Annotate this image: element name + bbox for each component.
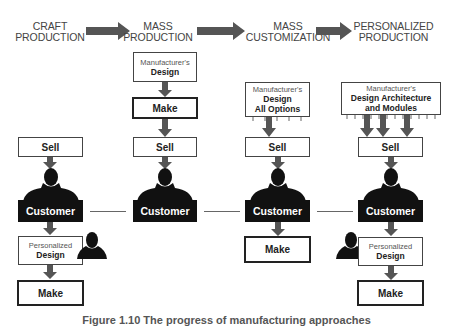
craft-make-box: Make bbox=[17, 280, 84, 306]
connector-line bbox=[204, 211, 240, 212]
mass-customization-make-box: Make bbox=[244, 236, 311, 263]
box-label: Sell bbox=[42, 142, 60, 153]
box-bold-text: Design bbox=[36, 250, 64, 260]
box-bold-text: and Modules bbox=[365, 103, 417, 113]
option-ticks bbox=[245, 117, 310, 121]
customer-silhouette-icon bbox=[135, 168, 195, 202]
down-arrow-icon bbox=[400, 115, 414, 137]
connector-line bbox=[317, 211, 353, 212]
personalized-design-box: Personalized Design bbox=[358, 237, 423, 266]
box-bold-text: Design bbox=[376, 251, 404, 261]
box-small-text: Manufacturer's bbox=[253, 85, 302, 94]
mass-production-customer-box: Customer bbox=[133, 200, 197, 222]
box-label: Sell bbox=[269, 142, 287, 153]
craft-personalized-design-box: Personalized Design bbox=[18, 236, 83, 265]
box-small-text: Personalized bbox=[369, 242, 412, 251]
personalized-sell-box: Sell bbox=[358, 137, 423, 157]
box-bold-text: Design bbox=[151, 67, 179, 77]
mass-customization-design-box: Manufacturer's Design All Options bbox=[245, 82, 310, 117]
personalized-customer-box: Customer bbox=[358, 200, 423, 222]
stage-header-personalized-production: PERSONALIZED PRODUCTION bbox=[346, 21, 441, 43]
down-arrow-icon bbox=[158, 119, 172, 137]
personalized-make-box: Make bbox=[357, 280, 424, 306]
person-silhouette-icon bbox=[77, 231, 107, 261]
box-small-text: Manufacturer's bbox=[366, 84, 415, 93]
customer-label: Customer bbox=[26, 205, 75, 217]
box-label: Sell bbox=[382, 142, 400, 153]
box-label: Sell bbox=[156, 142, 174, 153]
mass-production-design-box: Manufacturer's Design bbox=[133, 52, 197, 82]
mass-customization-customer-box: Customer bbox=[245, 200, 310, 222]
box-small-text: Personalized bbox=[29, 241, 72, 250]
mass-production-sell-box: Sell bbox=[133, 137, 197, 157]
down-arrow-icon bbox=[43, 265, 57, 279]
stage-line2: PRODUCTION bbox=[346, 32, 441, 43]
down-arrow-icon bbox=[360, 115, 374, 137]
customer-silhouette-icon bbox=[248, 168, 308, 202]
down-arrow-icon bbox=[384, 266, 398, 280]
box-bold-text: Design Architecture bbox=[351, 93, 431, 103]
stage-header-craft: CRAFT PRODUCTION bbox=[5, 21, 95, 43]
caption-text: Figure 1.10 The progress of manufacturin… bbox=[82, 314, 371, 326]
customer-label: Customer bbox=[253, 205, 302, 217]
figure-caption: Figure 1.10 The progress of manufacturin… bbox=[0, 314, 453, 326]
module-ticks bbox=[341, 115, 441, 119]
box-label: Make bbox=[38, 288, 63, 299]
stage-header-mass-production: MASS PRODUCTION bbox=[118, 21, 198, 43]
stage-line2: PRODUCTION bbox=[118, 32, 198, 43]
box-bold-text: All Options bbox=[255, 104, 300, 114]
customer-silhouette-icon bbox=[361, 168, 421, 202]
customer-silhouette-icon bbox=[21, 168, 81, 202]
box-label: Make bbox=[265, 244, 290, 255]
personalized-design-architecture-box: Manufacturer's Design Architecture and M… bbox=[341, 82, 441, 115]
box-small-text: Manufacturer's bbox=[140, 58, 189, 67]
box-label: Make bbox=[152, 103, 177, 114]
down-arrow-icon bbox=[262, 117, 276, 137]
box-label: Make bbox=[378, 288, 403, 299]
down-arrow-icon bbox=[158, 82, 172, 97]
customer-label: Customer bbox=[140, 205, 189, 217]
down-arrow-icon bbox=[384, 222, 398, 236]
customer-label: Customer bbox=[366, 205, 415, 217]
craft-sell-box: Sell bbox=[18, 137, 83, 157]
craft-customer-box: Customer bbox=[18, 200, 83, 222]
stage-line2: PRODUCTION bbox=[5, 32, 95, 43]
down-arrow-icon bbox=[43, 222, 57, 235]
mass-production-make-box: Make bbox=[132, 97, 198, 119]
mass-customization-sell-box: Sell bbox=[245, 137, 310, 157]
connector-line bbox=[90, 211, 126, 212]
down-arrow-icon bbox=[271, 222, 285, 236]
box-bold-text: Design bbox=[263, 94, 291, 104]
down-arrow-icon bbox=[376, 115, 390, 137]
